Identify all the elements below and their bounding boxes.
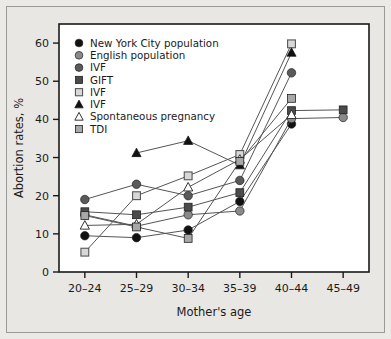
data-point-filled-square-marker [339,106,347,114]
y-axis-tick-label: 30 [35,152,49,165]
data-point-filled-square-light-marker [184,235,192,243]
data-point-open-square-marker [288,40,296,48]
x-axis-tick-label: 30–34 [171,282,205,295]
data-point-filled-circle-marker [132,180,140,188]
data-point-filled-circle-marker [287,69,295,77]
data-point-open-square-marker [133,192,141,200]
data-point-filled-square-marker [236,189,244,197]
data-point-filled-circle-marker [75,51,83,59]
x-axis-tick-label: 20–24 [68,282,102,295]
data-point-filled-square-light-marker [236,157,244,165]
x-axis-tick-label: 45–49 [326,282,360,295]
legend-label: Spontaneous pregnancy [90,110,215,122]
data-point-filled-circle-marker [75,39,83,47]
data-point-filled-circle-marker [236,197,244,205]
legend-label: English population [90,49,185,61]
data-point-filled-circle-marker [184,191,192,199]
y-axis-tick-label: 20 [35,190,49,203]
data-point-filled-square-marker [75,76,82,83]
figure-frame: 010203040506020–2425–2930–3435–3940–4445… [0,0,391,339]
legend-label: IVF [90,98,106,110]
data-point-filled-square-light-marker [133,223,141,231]
y-axis-title: Abortion rates, % [12,98,26,198]
data-point-filled-circle-marker [184,226,192,234]
data-point-open-square-marker [75,89,82,96]
data-point-filled-circle-marker [81,195,89,203]
legend-label: New York City population [90,37,219,49]
y-axis-tick-label: 40 [35,113,49,126]
data-point-filled-square-marker [184,203,192,211]
legend-label: GIFT [90,74,114,86]
legend-label: TDI [89,123,107,135]
data-point-open-square-marker [81,248,89,256]
data-point-filled-circle-marker [132,233,140,241]
data-point-filled-circle-marker [184,211,192,219]
data-point-filled-circle-marker [81,232,89,240]
x-axis-tick-label: 35–39 [223,282,257,295]
y-axis-tick-label: 60 [35,37,49,50]
x-axis-title: Mother's age [177,305,252,319]
x-axis-tick-label: 25–29 [120,282,154,295]
data-point-filled-square-light-marker [81,212,89,220]
x-axis-tick-label: 40–44 [275,282,309,295]
figure-inner-panel: 010203040506020–2425–2930–3435–3940–4445… [6,6,385,333]
data-point-filled-circle-marker [236,176,244,184]
abortion-rates-line-chart: 010203040506020–2425–2930–3435–3940–4445… [7,7,384,332]
y-axis-tick-label: 10 [35,228,49,241]
legend-label: IVF [90,61,106,73]
data-point-filled-circle-marker [236,207,244,215]
data-point-filled-circle-marker [75,64,83,72]
data-point-open-square-marker [184,172,192,180]
data-point-filled-square-light-marker [75,126,82,133]
y-axis-tick-label: 0 [42,266,49,279]
y-axis-tick-label: 50 [35,75,49,88]
data-point-filled-circle-marker [339,113,347,121]
data-point-filled-square-light-marker [288,94,296,102]
legend-label: IVF [90,86,106,98]
data-point-filled-square-marker [133,211,141,219]
